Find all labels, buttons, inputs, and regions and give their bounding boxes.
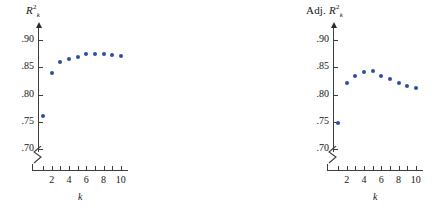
x-tick-2-6: [390, 166, 391, 170]
x-tick-1-3: [69, 166, 70, 170]
x-tick-label-1-9: 10: [109, 174, 133, 185]
data-point-1-8: [102, 52, 106, 56]
y-tick-label-2-3: .85: [301, 60, 329, 71]
data-point-1-6: [84, 52, 88, 56]
x-tick-2-8: [407, 166, 408, 170]
x-tick-2-9: [416, 166, 417, 170]
x-tick-1-7: [104, 166, 105, 170]
y-tick-label-1-0: .70: [6, 142, 34, 153]
x-tick-1-9: [121, 166, 122, 170]
y-tick-label-2-4: .90: [301, 33, 329, 44]
x-axis-name-2: k: [373, 191, 377, 202]
data-point-2-5: [371, 69, 375, 73]
data-point-1-5: [76, 55, 80, 59]
y-tick-label-1-3: .85: [6, 60, 34, 71]
data-point-2-9: [405, 84, 409, 88]
y-tick-1-3: [39, 67, 43, 68]
x-tick-2-5: [381, 166, 382, 170]
data-point-1-3: [58, 60, 62, 64]
x-axis-line-1: [32, 170, 128, 171]
x-tick-2-1: [347, 166, 348, 170]
x-axis-name-1: k: [78, 191, 82, 202]
data-point-2-6: [379, 74, 383, 78]
x-axis-stub-2: [327, 164, 328, 170]
data-point-2-1: [336, 121, 340, 125]
data-point-1-1: [41, 114, 45, 118]
y-tick-1-4: [39, 40, 43, 41]
x-tick-1-0: [43, 166, 44, 170]
y-axis-arrow-2: [331, 22, 337, 28]
x-tick-2-0: [338, 166, 339, 170]
panel-title-1: R2k: [26, 3, 40, 19]
x-tick-1-6: [95, 166, 96, 170]
y-tick-label-1-1: .75: [6, 115, 34, 126]
y-tick-1-1: [39, 122, 43, 123]
y-tick-label-2-2: .80: [301, 88, 329, 99]
data-point-2-2: [345, 81, 349, 85]
model-selection-figure: R2k.70.75.80.85.90246810kAdj. R2k.70.75.…: [0, 0, 439, 217]
data-point-1-4: [67, 57, 71, 61]
data-point-2-8: [397, 81, 401, 85]
y-tick-1-2: [39, 95, 43, 96]
y-axis-break-1: [31, 146, 47, 166]
y-tick-label-1-4: .90: [6, 33, 34, 44]
y-tick-2-2: [334, 95, 338, 96]
x-axis-line-2: [327, 170, 423, 171]
y-tick-label-2-1: .75: [301, 115, 329, 126]
data-point-1-10: [119, 54, 123, 58]
x-tick-label-2-9: 10: [404, 174, 428, 185]
x-tick-1-1: [52, 166, 53, 170]
x-tick-1-2: [60, 166, 61, 170]
x-tick-2-4: [373, 166, 374, 170]
data-point-1-2: [50, 71, 54, 75]
y-axis-line-1: [38, 28, 39, 152]
data-point-1-7: [93, 52, 97, 56]
x-tick-1-5: [86, 166, 87, 170]
y-tick-2-4: [334, 40, 338, 41]
data-point-1-9: [110, 53, 114, 57]
y-tick-label-2-0: .70: [301, 142, 329, 153]
x-tick-2-3: [364, 166, 365, 170]
x-tick-2-7: [399, 166, 400, 170]
data-point-2-7: [388, 77, 392, 81]
x-tick-1-8: [112, 166, 113, 170]
data-point-2-10: [414, 86, 418, 90]
y-axis-break-2: [326, 146, 342, 166]
panel-title-2: Adj. R2k: [306, 3, 343, 19]
y-tick-label-1-2: .80: [6, 88, 34, 99]
y-axis-line-2: [333, 28, 334, 152]
x-tick-1-4: [78, 166, 79, 170]
data-point-2-3: [353, 74, 357, 78]
x-axis-stub-1: [32, 164, 33, 170]
y-axis-arrow-1: [36, 22, 42, 28]
data-point-2-4: [362, 70, 366, 74]
y-tick-2-3: [334, 67, 338, 68]
x-tick-2-2: [355, 166, 356, 170]
